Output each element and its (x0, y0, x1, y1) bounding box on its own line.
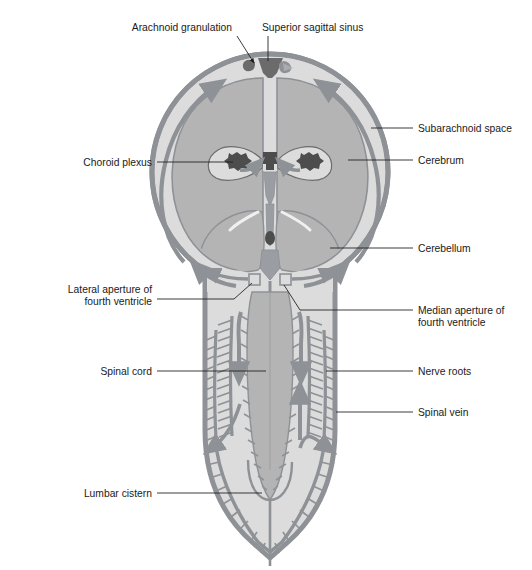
diagram-canvas: Arachnoid granulation Superior sagittal … (0, 0, 532, 570)
label-lateral-aperture-fourth-ventricle-line2: fourth ventricle (84, 296, 152, 307)
csf-circulation-diagram: Arachnoid granulation Superior sagittal … (0, 0, 532, 570)
label-median-aperture-fourth-ventricle-line1: Median aperture of (418, 305, 505, 316)
label-cerebellum: Cerebellum (418, 243, 471, 254)
label-arachnoid-granulation: Arachnoid granulation (132, 22, 232, 33)
label-lateral-aperture-fourth-ventricle-line1: Lateral aperture of (68, 284, 152, 295)
label-median-aperture-fourth-ventricle-line2: fourth ventricle (418, 317, 486, 328)
vermis-marker (265, 231, 275, 245)
label-subarachnoid-space: Subarachnoid space (418, 123, 512, 134)
label-lumbar-cistern: Lumbar cistern (84, 488, 152, 499)
longitudinal-fissure (264, 78, 276, 150)
label-choroid-plexus: Choroid plexus (83, 157, 152, 168)
label-nerve-roots: Nerve roots (418, 366, 471, 377)
label-superior-sagittal-sinus: Superior sagittal sinus (262, 22, 363, 33)
label-spinal-vein: Spinal vein (418, 407, 469, 418)
label-spinal-cord: Spinal cord (100, 366, 152, 377)
label-cerebrum: Cerebrum (418, 155, 464, 166)
